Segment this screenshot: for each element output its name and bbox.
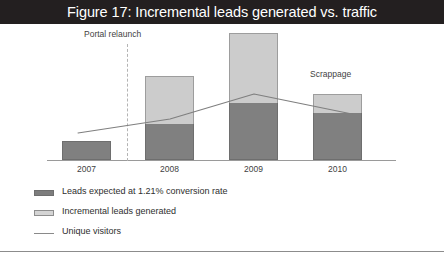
figure-title: Figure 17: Incremental leads generated v… — [0, 0, 444, 24]
x-tick-2010: 2010 — [313, 164, 362, 174]
figure-container: Figure 17: Incremental leads generated v… — [0, 0, 444, 257]
legend-swatch-light-icon — [34, 210, 54, 216]
legend-label-incremental-leads: Incremental leads generated — [62, 206, 176, 216]
x-tick-2007: 2007 — [62, 164, 111, 174]
legend-item-unique-visitors[interactable]: Unique visitors — [0, 224, 444, 244]
figure-title-bar: Figure 17: Incremental leads generated v… — [0, 0, 444, 24]
legend-label-unique-visitors: Unique visitors — [62, 226, 121, 236]
legend-item-leads-expected[interactable]: Leads expected at 1.21% conversion rate — [0, 184, 444, 204]
unique-visitors-trend-line — [0, 24, 444, 164]
x-tick-2009: 2009 — [229, 164, 278, 174]
chart-plot-area: Portal relaunch Scrappage — [0, 24, 444, 164]
chart-legend: Leads expected at 1.21% conversion rate … — [0, 184, 444, 244]
legend-swatch-dark-icon — [34, 190, 54, 196]
x-tick-2008: 2008 — [145, 164, 194, 174]
legend-label-leads-expected: Leads expected at 1.21% conversion rate — [62, 186, 228, 196]
figure-bottom-rule — [0, 251, 444, 252]
legend-swatch-line-icon — [34, 233, 54, 234]
legend-item-incremental-leads[interactable]: Incremental leads generated — [0, 204, 444, 224]
scrappage-label: Scrappage — [310, 69, 351, 79]
x-axis-labels: 2007 2008 2009 2010 — [0, 164, 444, 178]
